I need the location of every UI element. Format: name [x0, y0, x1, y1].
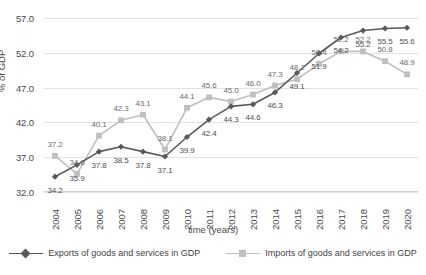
data-point-label: 49.1	[290, 81, 305, 90]
data-point-label: 51.9	[312, 62, 327, 71]
data-point-marker	[250, 101, 256, 107]
data-point-label: 38.1	[158, 133, 173, 142]
data-point-marker	[184, 105, 190, 111]
plot-area: 34.235.937.838.537.837.139.942.444.344.6…	[44, 18, 418, 192]
data-point-marker	[404, 71, 410, 77]
data-point-marker	[360, 27, 366, 33]
data-point-label: 50.8	[378, 45, 393, 54]
data-point-label: 37.8	[92, 160, 107, 169]
data-point-label: 46.3	[268, 101, 283, 110]
data-point-marker	[118, 117, 124, 123]
data-point-marker	[250, 92, 256, 98]
data-point-label: 52.2	[356, 35, 371, 44]
data-point-label: 42.4	[202, 128, 217, 137]
legend-item-exports[interactable]: Exports of goods and services in GDP	[9, 248, 200, 258]
y-tick-label: 32.0	[0, 187, 34, 198]
data-point-label: 37.8	[136, 160, 151, 169]
legend-label-imports: Imports of goods and services in GDP	[265, 248, 417, 258]
data-point-label: 45.0	[224, 85, 239, 94]
data-point-label: 39.9	[180, 146, 195, 155]
data-point-label: 48.9	[400, 58, 415, 67]
x-axis-title: time (years)	[0, 224, 426, 235]
legend-marker-exports-icon	[9, 248, 43, 258]
data-point-marker	[382, 58, 388, 64]
data-point-label: 35.9	[70, 173, 85, 182]
data-point-label: 44.3	[224, 115, 239, 124]
y-tick-label: 57.0	[0, 13, 34, 24]
data-point-marker	[206, 94, 212, 100]
data-point-label: 34.6	[70, 157, 85, 166]
legend-item-imports[interactable]: Imports of goods and services in GDP	[226, 248, 417, 258]
chart-container: % of GDP 34.235.937.838.537.837.139.942.…	[0, 0, 426, 275]
data-point-label: 52.2	[334, 35, 349, 44]
data-point-label: 37.1	[158, 165, 173, 174]
data-point-label: 47.3	[268, 69, 283, 78]
data-point-marker	[52, 153, 58, 159]
data-point-label: 44.1	[180, 91, 195, 100]
data-point-label: 50.4	[312, 47, 327, 56]
series-line	[55, 51, 407, 173]
data-point-marker	[272, 83, 278, 89]
data-point-marker	[96, 133, 102, 139]
data-point-label: 42.3	[114, 104, 129, 113]
legend-label-exports: Exports of goods and services in GDP	[48, 248, 200, 258]
data-point-label: 45.6	[202, 81, 217, 90]
data-point-label: 34.2	[48, 185, 63, 194]
data-point-label: 44.6	[246, 113, 261, 122]
data-point-label: 40.1	[92, 119, 107, 128]
data-point-marker	[162, 147, 168, 153]
data-point-marker	[52, 174, 58, 180]
data-point-label: 46.0	[246, 78, 261, 87]
data-point-label: 48.2	[290, 63, 305, 72]
data-point-marker	[360, 49, 366, 55]
grid-line	[44, 192, 418, 193]
data-point-marker	[404, 25, 410, 31]
data-point-label: 37.2	[48, 139, 63, 148]
data-point-marker	[118, 144, 124, 150]
data-point-marker	[140, 149, 146, 155]
y-tick-label: 52.0	[0, 47, 34, 58]
y-tick-label: 47.0	[0, 82, 34, 93]
legend-marker-imports-icon	[226, 248, 260, 258]
data-point-label: 43.1	[136, 98, 151, 107]
data-point-label: 54.2	[334, 46, 349, 55]
data-point-label: 55.6	[400, 36, 415, 45]
data-point-marker	[382, 25, 388, 31]
data-point-label: 38.5	[114, 155, 129, 164]
data-point-marker	[140, 112, 146, 118]
y-tick-label: 37.0	[0, 152, 34, 163]
chart-legend: Exports of goods and services in GDP Imp…	[0, 248, 426, 258]
y-tick-label: 42.0	[0, 117, 34, 128]
